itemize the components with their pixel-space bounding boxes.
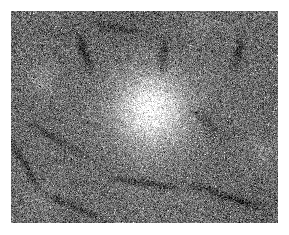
speckle-image-canvas xyxy=(11,11,278,223)
page-root xyxy=(0,0,289,235)
grayscale-speckle-image-panel xyxy=(11,11,278,223)
